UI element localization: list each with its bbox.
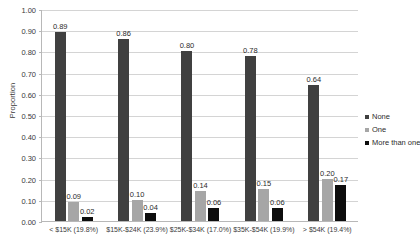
bar[interactable]: 0.09	[68, 202, 79, 221]
legend-swatch-icon	[365, 141, 369, 145]
bar-group: 0.640.200.17> $54K (19.4%)	[296, 10, 359, 221]
bar[interactable]: 0.89	[55, 32, 66, 221]
legend-item[interactable]: One	[365, 123, 420, 136]
bar[interactable]: 0.10	[132, 200, 143, 221]
plot-area: 1.000.900.800.700.600.500.400.300.200.10…	[41, 10, 358, 222]
legend-item[interactable]: More than one	[365, 136, 420, 149]
y-axis-tick-label: 0.20	[21, 175, 36, 184]
bar-value-label: 0.17	[333, 175, 348, 184]
chart-legend: NoneOneMore than one	[365, 110, 420, 149]
y-axis-tick-label: 0.10	[21, 196, 36, 205]
bar-chart: Proportion 1.000.900.800.700.600.500.400…	[0, 0, 420, 246]
bar-value-label: 0.10	[130, 190, 145, 199]
bar-value-label: 0.80	[180, 41, 195, 50]
bar[interactable]: 0.04	[145, 213, 156, 221]
y-axis-tick-label: 0.80	[21, 48, 36, 57]
y-axis-tick-label: 1.00	[21, 6, 36, 15]
bar[interactable]: 0.80	[181, 51, 192, 221]
bar-value-label: 0.09	[66, 192, 81, 201]
bar-group: 0.860.100.04$15K-$24K (23.9%)	[105, 10, 168, 221]
legend-label: None	[372, 112, 390, 121]
bar-value-label: 0.02	[80, 207, 95, 216]
x-axis-tick-label: < $15K (19.8%)	[49, 226, 98, 233]
legend-item[interactable]: None	[365, 110, 420, 123]
bar-value-label: 0.06	[207, 198, 222, 207]
bar-value-label: 0.64	[306, 75, 321, 84]
x-axis-tick-label: $25K-$34K (17.0%)	[170, 226, 231, 233]
y-axis-tick-label: 0.70	[21, 69, 36, 78]
bar[interactable]: 0.78	[245, 56, 256, 221]
bar-value-label: 0.78	[243, 46, 258, 55]
x-axis-tick-label: $35K-$54K (19.9%)	[233, 226, 294, 233]
bar[interactable]: 0.02	[82, 217, 93, 221]
bar-value-label: 0.15	[257, 179, 272, 188]
bar[interactable]: 0.06	[208, 208, 219, 221]
y-axis-tick-label: 0.60	[21, 90, 36, 99]
bar-group: 0.780.150.06$35K-$54K (19.9%)	[232, 10, 295, 221]
bar[interactable]: 0.15	[258, 189, 269, 221]
bar-value-label: 0.20	[320, 169, 335, 178]
bar[interactable]: 0.17	[335, 185, 346, 221]
legend-swatch-icon	[365, 115, 369, 119]
y-axis-tick-label: 0.00	[21, 218, 36, 227]
bar-value-label: 0.89	[53, 22, 68, 31]
bar-value-label: 0.86	[116, 29, 131, 38]
legend-label: One	[372, 125, 386, 134]
y-axis-tick-label: 0.90	[21, 27, 36, 36]
bar[interactable]: 0.14	[195, 191, 206, 221]
bar-value-label: 0.04	[143, 203, 158, 212]
bar-value-label: 0.06	[270, 198, 285, 207]
legend-label: More than one	[372, 138, 420, 147]
x-axis-tick-label: $15K-$24K (23.9%)	[106, 226, 167, 233]
bar[interactable]: 0.20	[322, 179, 333, 221]
bar-group: 0.800.140.06$25K-$34K (17.0%)	[169, 10, 232, 221]
bar[interactable]: 0.86	[118, 39, 129, 221]
bar-group: 0.890.090.02< $15K (19.8%)	[42, 10, 105, 221]
y-axis-tick-label: 0.30	[21, 154, 36, 163]
x-axis-tick-label: > $54K (19.4%)	[303, 226, 352, 233]
y-axis-tick-label: 0.50	[21, 112, 36, 121]
bar-value-label: 0.14	[193, 181, 208, 190]
y-axis-tick	[39, 222, 42, 223]
y-axis-tick-label: 0.40	[21, 133, 36, 142]
y-axis-title: Proportion	[8, 66, 17, 136]
bar[interactable]: 0.64	[308, 85, 319, 221]
legend-swatch-icon	[365, 128, 369, 132]
bar[interactable]: 0.06	[272, 208, 283, 221]
